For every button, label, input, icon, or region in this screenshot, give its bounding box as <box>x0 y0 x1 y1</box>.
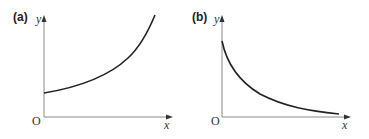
graph-b-svg <box>185 0 369 139</box>
panel-b-decay-graph: (b) y O x <box>185 0 369 139</box>
decay-curve <box>222 41 339 114</box>
panel-a-growth-graph: (a) y O x <box>0 0 184 139</box>
y-axis-arrow-icon <box>220 15 225 22</box>
y-axis-arrow-icon <box>42 15 47 22</box>
x-axis-arrow-icon <box>344 115 351 120</box>
x-axis-arrow-icon <box>166 115 173 120</box>
graph-a-svg <box>0 0 184 139</box>
growth-curve <box>44 15 155 93</box>
